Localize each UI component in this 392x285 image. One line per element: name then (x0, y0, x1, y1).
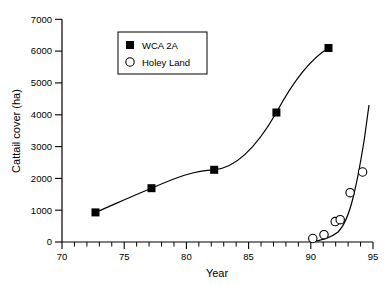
y-tick-label: 4000 (31, 109, 52, 120)
y-tick-label: 1000 (31, 205, 52, 216)
legend-marker-filled-square (126, 41, 134, 49)
x-major-ticks (62, 242, 373, 249)
y-tick-label: 7000 (31, 14, 52, 25)
x-tick-label: 80 (181, 251, 192, 262)
legend-label-holey-land: Holey Land (142, 57, 190, 68)
x-tick-label: 85 (243, 251, 254, 262)
data-point-marker (309, 234, 317, 242)
y-tick-label: 2000 (31, 173, 52, 184)
y-tick-label: 5000 (31, 77, 52, 88)
x-tick-label: 95 (368, 251, 379, 262)
x-axis-title: Year (206, 267, 229, 279)
data-point-marker (358, 168, 366, 176)
legend-marker-open-circle (126, 58, 134, 66)
legend: WCA 2A Holey Land (118, 32, 207, 74)
x-tick-labels: 70 75 80 85 90 95 (57, 251, 379, 262)
y-tick-label: 0 (47, 236, 52, 247)
data-point-marker (92, 208, 100, 216)
y-tick-labels: 7000 6000 5000 4000 3000 2000 1000 0 (31, 14, 52, 248)
data-point-marker (320, 231, 328, 239)
legend-box (118, 32, 207, 74)
data-point-marker (346, 189, 354, 197)
chart-figure: 7000 6000 5000 4000 3000 2000 1000 0 (0, 0, 392, 285)
legend-label-wca-2a: WCA 2A (142, 40, 179, 51)
y-tick-label: 3000 (31, 141, 52, 152)
y-axis-title: Cattail cover (ha) (10, 89, 22, 173)
data-point-marker (272, 109, 280, 117)
y-ticks (55, 19, 62, 242)
x-tick-label: 75 (119, 251, 130, 262)
chart-svg: 7000 6000 5000 4000 3000 2000 1000 0 (0, 0, 392, 285)
x-tick-label: 90 (306, 251, 317, 262)
x-minor-ticks (74, 242, 360, 247)
data-point-marker (148, 184, 156, 192)
data-point-marker (336, 216, 344, 224)
x-tick-label: 70 (57, 251, 68, 262)
y-tick-label: 6000 (31, 45, 52, 56)
data-point-marker (325, 44, 333, 52)
data-point-marker (210, 166, 218, 174)
